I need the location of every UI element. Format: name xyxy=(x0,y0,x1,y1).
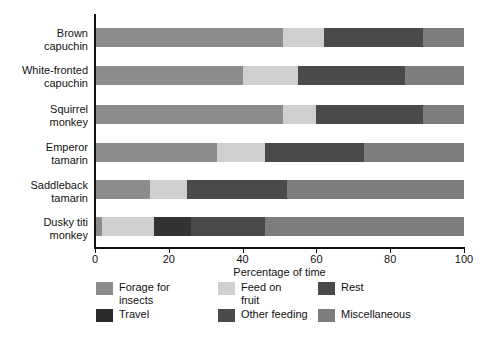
x-axis-tick-label: 20 xyxy=(163,253,175,265)
legend-swatch xyxy=(218,282,235,295)
x-axis-tick-label: 60 xyxy=(310,253,322,265)
bar-segment xyxy=(95,143,217,162)
bar-segment xyxy=(95,28,283,47)
category-label: Squirrel monkey xyxy=(0,103,88,128)
category-label: White-fronted capuchin xyxy=(0,64,88,89)
bar-row xyxy=(95,217,464,236)
legend-swatch xyxy=(318,309,335,322)
x-axis-line xyxy=(94,247,465,249)
x-axis-tick-label: 0 xyxy=(92,253,98,265)
bar-segment xyxy=(265,143,365,162)
legend-label: Miscellaneous xyxy=(341,308,411,321)
bar-segment xyxy=(95,180,150,199)
bar-segment xyxy=(364,143,464,162)
bar-segment xyxy=(316,105,423,124)
stacked-bar xyxy=(95,217,464,236)
bar-segment xyxy=(187,180,287,199)
bar-segment xyxy=(324,28,424,47)
legend-item: Rest xyxy=(318,281,364,295)
bar-segment xyxy=(150,180,187,199)
stacked-bar-chart: Brown capuchinWhite-fronted capuchinSqui… xyxy=(0,0,501,353)
legend-item: Other feeding xyxy=(218,308,308,322)
plot-area xyxy=(95,14,464,246)
bar-segment xyxy=(243,66,298,85)
bar-row xyxy=(95,66,464,85)
y-axis-line xyxy=(94,14,96,248)
legend-item: Feed on fruit xyxy=(218,281,281,306)
x-axis-tick-label: 80 xyxy=(384,253,396,265)
legend-label: Travel xyxy=(119,308,149,321)
stacked-bar xyxy=(95,180,464,199)
legend-item: Travel xyxy=(96,308,149,322)
legend-label: Feed on fruit xyxy=(241,281,281,306)
bar-segment xyxy=(217,143,265,162)
bar-row xyxy=(95,28,464,47)
chart-legend: Forage for insectsFeed on fruitRestTrave… xyxy=(96,281,426,331)
bar-segment xyxy=(423,105,464,124)
stacked-bar xyxy=(95,143,464,162)
stacked-bar xyxy=(95,105,464,124)
legend-item: Miscellaneous xyxy=(318,308,411,322)
category-label: Brown capuchin xyxy=(0,27,88,52)
legend-swatch xyxy=(96,282,113,295)
bar-segment xyxy=(283,28,324,47)
x-axis-tick-label: 40 xyxy=(236,253,248,265)
legend-swatch xyxy=(218,309,235,322)
stacked-bar xyxy=(95,28,464,47)
stacked-bar xyxy=(95,66,464,85)
bar-segment xyxy=(298,66,405,85)
bar-row xyxy=(95,105,464,124)
bar-segment xyxy=(265,217,464,236)
x-axis-tick-label: 100 xyxy=(455,253,473,265)
category-label: Dusky titi monkey xyxy=(0,216,88,241)
bar-segment xyxy=(95,66,243,85)
legend-label: Other feeding xyxy=(241,308,308,321)
bar-segment xyxy=(423,28,464,47)
bar-row xyxy=(95,180,464,199)
bar-segment xyxy=(95,217,102,236)
bar-segment xyxy=(102,217,154,236)
bar-segment xyxy=(191,217,265,236)
legend-swatch xyxy=(318,282,335,295)
bar-row xyxy=(95,143,464,162)
bar-segment xyxy=(287,180,464,199)
legend-swatch xyxy=(96,309,113,322)
bar-segment xyxy=(95,105,283,124)
category-label: Saddleback tamarin xyxy=(0,179,88,204)
bar-segment xyxy=(405,66,464,85)
legend-label: Forage for insects xyxy=(119,281,170,306)
bar-segment xyxy=(154,217,191,236)
legend-item: Forage for insects xyxy=(96,281,170,306)
category-label: Emperor tamarin xyxy=(0,141,88,166)
bar-segment xyxy=(283,105,316,124)
x-axis-title: Percentage of time xyxy=(95,266,464,278)
legend-label: Rest xyxy=(341,281,364,294)
